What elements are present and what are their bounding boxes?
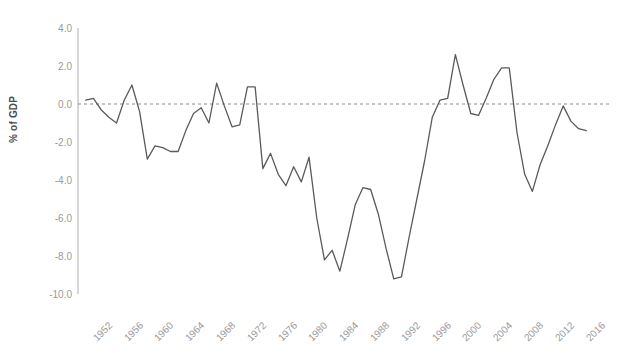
data-series-line [86,55,587,279]
plot-area [0,0,619,353]
chart-container: % of GDP 4.02.00.0-2.0-4.0-6.0-8.0-10.0 … [0,0,619,353]
